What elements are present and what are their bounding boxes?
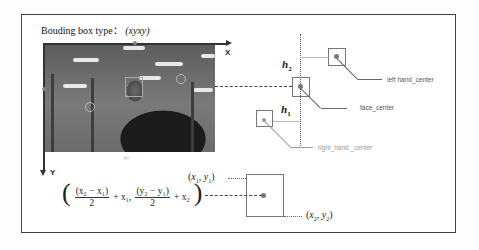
- background-post: [91, 78, 94, 152]
- face-leader-tail: [321, 108, 347, 109]
- ceiling-light: [193, 88, 213, 92]
- h1-label: h1: [281, 103, 291, 118]
- bbox-type-title: Bouding box type： (xyxy): [41, 22, 150, 37]
- formula-paren-open: (: [62, 178, 71, 207]
- center-formula: ( (x₂ − x₁) 2 + x₁, (y₂ − y₁) 2 + x₂ ): [62, 180, 202, 209]
- ceiling-light: [155, 62, 183, 66]
- ceiling-light: [201, 54, 215, 58]
- photo-to-face-connector: [215, 86, 292, 87]
- y-axis-arrow-icon: [40, 170, 46, 176]
- center-leader: [205, 195, 262, 196]
- left-hand-marker: [176, 74, 186, 84]
- y-axis-label: Y: [50, 168, 55, 177]
- fraction-y: (y₂ − y₁) 2: [135, 186, 170, 209]
- right-hand-center-label: right_hand _center: [318, 144, 372, 151]
- fraction-x: (x₂ − x₁) 2: [75, 186, 110, 209]
- h1-subscript: 1: [287, 110, 291, 118]
- h2-guide: [300, 57, 330, 58]
- x-axis-arrow-icon: [226, 40, 232, 46]
- left-hand-center-label: left hand_center: [387, 76, 434, 83]
- title-prefix: Bouding box type：: [41, 25, 123, 36]
- axis-midpoint-dot: [133, 41, 137, 45]
- ceiling-light: [73, 58, 99, 62]
- bottom-right-leader: [284, 216, 302, 217]
- background-post: [51, 74, 54, 152]
- formula-term-x: + x₁,: [113, 192, 131, 202]
- ceiling-light: [63, 84, 87, 88]
- axis-midpoint-dot: [42, 87, 46, 91]
- fraction-y-numerator: (y₂ − y₁): [135, 186, 170, 198]
- fraction-x-denominator: 2: [75, 198, 110, 209]
- formula-term-y: + x₂: [174, 192, 190, 202]
- bottom-right-coord-label: (x2, y2): [306, 209, 333, 222]
- ceiling-light: [123, 46, 145, 50]
- face-center-label: face_center: [360, 104, 394, 111]
- x-axis-label: X: [225, 48, 230, 57]
- h2-label: h2: [282, 58, 292, 73]
- photo-caption: (c): [124, 155, 129, 160]
- paren-close: ): [329, 209, 332, 220]
- y-axis: [43, 43, 45, 171]
- title-type: (xyxy): [125, 25, 149, 36]
- fraction-x-numerator: (x₂ − x₁): [75, 186, 110, 198]
- fraction-y-denominator: 2: [135, 198, 170, 209]
- person-photo: [43, 44, 215, 152]
- formula-paren-close: ): [194, 178, 203, 207]
- background-post: [191, 82, 194, 152]
- paren-close: ): [211, 171, 214, 182]
- face-box-marker: [125, 77, 143, 97]
- top-left-leader: [228, 178, 246, 179]
- right-hand-leader-tail: [291, 147, 313, 148]
- left-hand-leader-tail: [358, 79, 382, 80]
- h2-subscript: 2: [288, 65, 292, 73]
- right-hand-marker: [85, 102, 95, 112]
